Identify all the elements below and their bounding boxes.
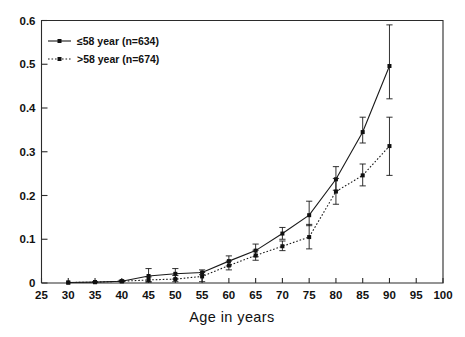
data-point-55 <box>200 274 204 278</box>
legend-marker-1 <box>58 39 62 43</box>
legend-marker-2 <box>58 57 62 61</box>
y-tick-label-0.4: 0.4 <box>20 102 37 114</box>
y-tick-label-0.3: 0.3 <box>20 146 36 158</box>
x-tick-label-65: 65 <box>249 289 262 301</box>
y-tick-label-0.2: 0.2 <box>20 190 36 202</box>
x-axis-tick-labels: 253035404550556065707580859095100 <box>35 289 452 301</box>
x-tick-label-90: 90 <box>383 289 396 301</box>
x-tick-label-45: 45 <box>142 289 155 301</box>
x-tick-label-40: 40 <box>115 289 128 301</box>
y-axis-ticks <box>42 21 48 284</box>
chart-plot-svg: 253035404550556065707580859095100 00.10.… <box>0 0 465 337</box>
data-point-75 <box>307 235 311 239</box>
x-tick-label-25: 25 <box>35 289 48 301</box>
data-point-60 <box>227 264 231 268</box>
data-point-65 <box>254 253 258 257</box>
data-point-70 <box>280 232 284 236</box>
data-point-70 <box>280 244 284 248</box>
series-1-markers <box>66 64 391 285</box>
data-point-50 <box>173 277 177 281</box>
legend-entry-1: ≤58 year (n=634) <box>48 35 159 47</box>
y-tick-label-0: 0 <box>29 277 35 289</box>
data-point-35 <box>93 280 97 284</box>
y-tick-label-0.5: 0.5 <box>20 58 37 70</box>
y-tick-label-0.6: 0.6 <box>20 15 36 27</box>
x-tick-label-95: 95 <box>410 289 423 301</box>
x-tick-label-60: 60 <box>222 289 235 301</box>
x-tick-label-85: 85 <box>356 289 369 301</box>
x-tick-label-30: 30 <box>62 289 75 301</box>
y-axis-tick-labels: 00.10.20.30.40.50.6 <box>20 15 37 290</box>
chart-container: 253035404550556065707580859095100 00.10.… <box>0 0 465 337</box>
series-2-errorbars <box>92 117 393 282</box>
legend-entry-2: >58 year (n=674) <box>48 53 159 65</box>
data-point-45 <box>147 278 151 282</box>
data-point-90 <box>387 64 391 68</box>
x-tick-label-55: 55 <box>196 289 209 301</box>
data-point-75 <box>307 213 311 217</box>
series-1-errorbars <box>119 25 393 282</box>
chart-legend: ≤58 year (n=634)>58 year (n=674) <box>48 35 159 65</box>
x-tick-label-100: 100 <box>433 289 452 301</box>
series-1-line <box>68 66 389 283</box>
data-point-30 <box>66 281 70 285</box>
x-tick-label-70: 70 <box>276 289 289 301</box>
data-point-85 <box>361 173 365 177</box>
x-tick-label-50: 50 <box>169 289 182 301</box>
x-axis-title: Age in years <box>189 309 274 325</box>
x-tick-label-35: 35 <box>89 289 102 301</box>
legend-label-2: >58 year (n=674) <box>77 53 159 65</box>
data-point-85 <box>361 130 365 134</box>
x-tick-label-80: 80 <box>330 289 343 301</box>
data-point-80 <box>334 190 338 194</box>
legend-label-1: ≤58 year (n=634) <box>77 35 159 47</box>
x-tick-label-75: 75 <box>303 289 316 301</box>
data-point-90 <box>387 144 391 148</box>
y-tick-label-0.1: 0.1 <box>20 233 37 245</box>
data-point-40 <box>120 279 124 283</box>
